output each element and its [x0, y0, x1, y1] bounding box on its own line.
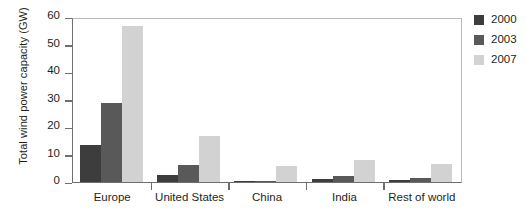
- bar: [199, 136, 220, 182]
- bar: [276, 166, 297, 182]
- legend-label: 2000: [491, 14, 517, 26]
- y-axis-tick-mark: [65, 73, 72, 75]
- x-axis-tick-marks: [74, 183, 461, 191]
- x-axis-label: India: [306, 191, 383, 203]
- y-axis-tick-mark: [65, 100, 72, 102]
- bar-group: [74, 18, 151, 182]
- y-axis-tick-label: 30: [20, 93, 60, 105]
- x-axis-tick-mark: [228, 183, 230, 190]
- bar: [354, 160, 375, 182]
- legend-item: 2003: [474, 34, 517, 46]
- legend-swatch-icon: [474, 15, 484, 25]
- bar: [312, 179, 333, 182]
- bar: [122, 26, 143, 182]
- y-axis-tick-label: 20: [20, 120, 60, 132]
- bar-group: [383, 18, 460, 182]
- x-axis-tick-mark: [383, 183, 385, 190]
- y-axis-tick-label: 50: [20, 38, 60, 50]
- legend-item: 2007: [474, 54, 517, 66]
- bar: [333, 176, 354, 182]
- y-axis-tick-label: 10: [20, 148, 60, 160]
- x-axis-tick-mark: [306, 183, 308, 190]
- legend: 200020032007: [474, 14, 517, 74]
- y-axis-tick-label: 0: [20, 175, 60, 187]
- bar: [178, 165, 199, 182]
- legend-item: 2000: [474, 14, 517, 26]
- bar-group: [151, 18, 228, 182]
- bar-group: [228, 18, 305, 182]
- y-axis-tick-label: 60: [20, 10, 60, 22]
- y-axis-tick-mark: [65, 183, 72, 185]
- bar: [157, 175, 178, 182]
- x-axis-tick-mark: [151, 183, 153, 190]
- y-axis-tick-mark: [65, 155, 72, 157]
- x-axis-label: Rest of world: [383, 191, 460, 203]
- bar: [255, 181, 276, 183]
- y-axis-tick-label: 40: [20, 65, 60, 77]
- x-axis-label: China: [228, 191, 305, 203]
- x-axis-label: United States: [151, 191, 228, 203]
- y-axis-tick-mark: [65, 18, 72, 20]
- bar-group: [306, 18, 383, 182]
- y-axis-tick-mark: [65, 45, 72, 47]
- bar: [80, 145, 101, 182]
- legend-swatch-icon: [474, 55, 484, 65]
- legend-label: 2003: [491, 34, 517, 46]
- bar: [234, 181, 255, 182]
- wind-power-capacity-bar-chart: Total wind power capacity (GW) 010203040…: [0, 0, 526, 217]
- bar: [431, 164, 452, 182]
- y-axis-tick-mark: [65, 128, 72, 130]
- x-axis-label: Europe: [74, 191, 151, 203]
- x-axis-labels: EuropeUnited StatesChinaIndiaRest of wor…: [74, 191, 461, 203]
- legend-label: 2007: [491, 54, 517, 66]
- plot-area: [74, 18, 461, 182]
- bar: [410, 178, 431, 182]
- y-axis-ticks: 0102030405060: [0, 18, 72, 183]
- legend-swatch-icon: [474, 35, 484, 45]
- bar: [389, 180, 410, 182]
- bar: [101, 103, 122, 182]
